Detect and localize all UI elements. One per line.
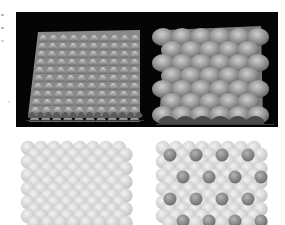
sphere-model-clean-graphic bbox=[20, 140, 136, 225]
surface-plot-dense-peaks bbox=[16, 12, 145, 127]
surface-plot-strip bbox=[16, 12, 278, 127]
surface-right-graphic bbox=[145, 12, 278, 127]
surface-plot-rounded-bumps bbox=[145, 12, 278, 127]
surface-right-axis bbox=[156, 124, 274, 125]
surface-left-graphic bbox=[16, 12, 145, 127]
sphere-model-adsorbate-graphic bbox=[155, 140, 271, 225]
sphere-model-clean bbox=[20, 140, 136, 225]
clipped-edge-text bbox=[1, 14, 7, 54]
surface-left-axis bbox=[26, 120, 144, 121]
sphere-model-adsorbate bbox=[155, 140, 271, 225]
stray-mark bbox=[8, 101, 10, 103]
